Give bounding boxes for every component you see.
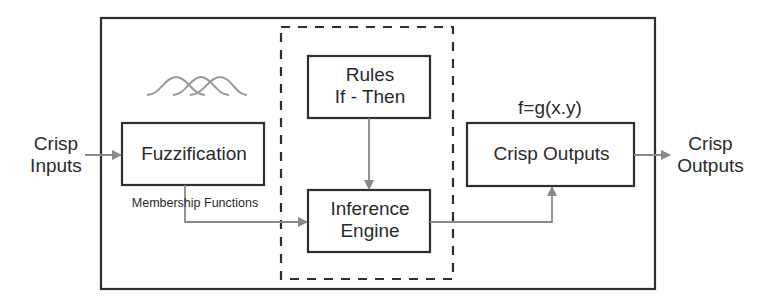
fuzzy-system-diagram — [0, 0, 767, 302]
rules-line-2: If - Then — [308, 86, 432, 108]
arrow-inference-to-crisp-outputs — [430, 187, 552, 222]
output-function-label: f=g(x.y) — [490, 97, 610, 119]
crisp-outputs-line-2: Outputs — [668, 155, 753, 177]
crisp-outputs-line-1: Crisp — [668, 133, 753, 155]
inference-line-1: Inference — [308, 198, 432, 220]
inference-line-2: Engine — [308, 220, 432, 242]
crisp-outputs-external-label: Crisp Outputs — [668, 133, 753, 177]
crisp-outputs-box-label: Crisp Outputs — [467, 143, 636, 165]
rules-label: Rules If - Then — [308, 64, 432, 108]
fuzzification-label: Fuzzification — [122, 143, 266, 165]
rules-line-1: Rules — [308, 64, 432, 86]
inference-engine-label: Inference Engine — [308, 198, 432, 242]
crisp-inputs-label: Crisp Inputs — [20, 133, 92, 177]
membership-functions-label: Membership Functions — [110, 196, 280, 210]
membership-curve-3 — [190, 77, 247, 95]
crisp-inputs-line-1: Crisp — [20, 133, 92, 155]
crisp-inputs-line-2: Inputs — [20, 155, 92, 177]
membership-functions-icon — [147, 77, 247, 95]
